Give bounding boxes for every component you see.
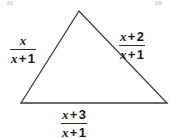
left-side-label: x x+1 bbox=[10, 34, 36, 65]
left-fraction-bar bbox=[10, 49, 36, 50]
bottom-numerator-variable: x bbox=[62, 107, 69, 122]
right-denominator-number: 1 bbox=[137, 47, 145, 62]
right-denominator-variable: x bbox=[120, 47, 127, 62]
scan-artifact-top-right bbox=[155, 1, 162, 5]
right-side-label: x+2 x+1 bbox=[119, 30, 145, 61]
left-denominator-number: 1 bbox=[28, 51, 36, 66]
bottom-side-label: x+3 x+1 bbox=[61, 108, 87, 138]
triangle-figure: x x+1 x+2 x+1 x+3 x+1 bbox=[0, 0, 173, 138]
left-numerator-variable: x bbox=[20, 33, 27, 48]
bottom-fraction-bar bbox=[61, 123, 87, 124]
bottom-denominator-operator: + bbox=[69, 125, 79, 138]
right-fraction-bar bbox=[119, 45, 145, 46]
right-label-numerator: x+2 bbox=[119, 30, 145, 43]
left-label-denominator: x+1 bbox=[10, 52, 36, 65]
scan-artifact-top-left bbox=[7, 1, 13, 5]
right-numerator-variable: x bbox=[120, 29, 127, 44]
right-numerator-number: 2 bbox=[137, 29, 145, 44]
bottom-denominator-variable: x bbox=[62, 125, 69, 138]
bottom-numerator-operator: + bbox=[69, 107, 79, 122]
bottom-label-denominator: x+1 bbox=[61, 126, 87, 138]
right-denominator-operator: + bbox=[127, 47, 137, 62]
bottom-denominator-number: 1 bbox=[79, 125, 87, 138]
left-label-numerator: x bbox=[19, 34, 28, 47]
left-denominator-variable: x bbox=[11, 51, 18, 66]
bottom-numerator-number: 3 bbox=[79, 107, 87, 122]
left-denominator-operator: + bbox=[18, 51, 28, 66]
right-label-denominator: x+1 bbox=[119, 48, 145, 61]
right-numerator-operator: + bbox=[127, 29, 137, 44]
bottom-label-numerator: x+3 bbox=[61, 108, 87, 121]
